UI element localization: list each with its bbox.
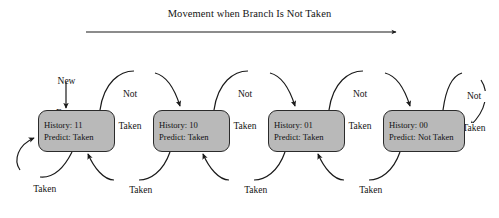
arc-label-not-taken-1-line1: Not: [223, 89, 267, 100]
arc-label-not-taken-2-line1: Not: [338, 89, 382, 100]
state-s01-history: History: 01: [274, 119, 344, 131]
state-node-s01[interactable]: History: 01 Predict: Taken: [268, 110, 345, 152]
new-entry-label-line1: New: [44, 76, 89, 87]
state-s10-history: History: 10: [159, 119, 229, 131]
state-node-s00[interactable]: History: 00 Predict: Not Taken: [383, 110, 465, 152]
arc-label-not-taken-3-line1: Not: [452, 91, 496, 102]
arc-label-taken-2-text: Taken: [243, 185, 268, 195]
arc-label-taken-0-text: Taken: [32, 184, 57, 194]
state-s10-predict: Predict: Taken: [159, 131, 229, 143]
state-s00-history: History: 00: [389, 119, 464, 131]
arc-label-taken-1: Taken: [115, 174, 157, 206]
diagram-canvas: Movement when Branch Is Not Taken: [0, 0, 499, 218]
arc-label-taken-1-text: Taken: [128, 185, 153, 195]
arc-label-taken-3: Taken: [345, 174, 387, 206]
arc-label-not-taken-0-line1: Not: [108, 89, 152, 100]
arc-label-taken-2: Taken: [230, 174, 272, 206]
arc-label-taken-3-text: Taken: [358, 185, 383, 195]
arc-label-taken-0: Taken: [19, 173, 61, 205]
state-node-s11[interactable]: History: 11 Predict: Taken: [38, 110, 115, 152]
state-node-s10[interactable]: History: 10 Predict: Taken: [153, 110, 230, 152]
state-s11-history: History: 11: [44, 119, 114, 131]
state-s00-predict: Predict: Not Taken: [389, 131, 464, 143]
state-s11-predict: Predict: Taken: [44, 131, 114, 143]
state-s01-predict: Predict: Taken: [274, 131, 344, 143]
